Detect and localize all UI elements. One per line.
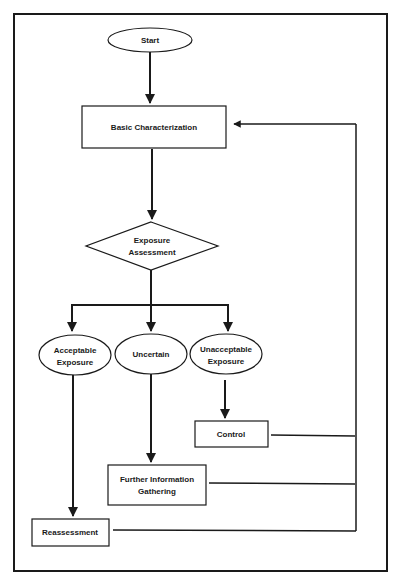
node-uncertain[interactable]: Uncertain bbox=[115, 334, 187, 374]
node-acceptable-exposure-label-line2: Exposure bbox=[57, 358, 94, 367]
node-unacceptable-exposure-label-line2: Exposure bbox=[208, 357, 245, 366]
node-acceptable-exposure-label-line1: Acceptable bbox=[54, 346, 97, 355]
node-reassessment[interactable]: Reassessment bbox=[32, 519, 109, 546]
node-exposure-assessment[interactable]: Exposure Assessment bbox=[86, 222, 218, 270]
node-uncertain-label: Uncertain bbox=[133, 350, 170, 359]
node-further-information-gathering[interactable]: Further Information Gathering bbox=[108, 465, 206, 505]
flowchart-canvas: Start Basic Characterization Exposure As… bbox=[0, 0, 397, 579]
branch-connectors bbox=[71, 270, 229, 331]
node-basic-characterization[interactable]: Basic Characterization bbox=[82, 106, 226, 148]
node-acceptable-exposure[interactable]: Acceptable Exposure bbox=[39, 335, 111, 375]
node-start-label: Start bbox=[141, 36, 160, 45]
node-reassessment-label: Reassessment bbox=[42, 528, 98, 537]
node-exposure-assessment-label-line2: Assessment bbox=[128, 248, 175, 257]
node-exposure-assessment-label-line1: Exposure bbox=[134, 236, 171, 245]
node-unacceptable-exposure-label-line1: Unacceptable bbox=[200, 345, 253, 354]
node-control-label: Control bbox=[217, 430, 245, 439]
node-start[interactable]: Start bbox=[108, 28, 192, 52]
node-unacceptable-exposure[interactable]: Unacceptable Exposure bbox=[190, 334, 262, 374]
node-basic-characterization-label: Basic Characterization bbox=[111, 123, 197, 132]
node-further-info-label-line2: Gathering bbox=[138, 487, 176, 496]
node-control[interactable]: Control bbox=[195, 421, 268, 447]
node-further-info-label-line1: Further Information bbox=[120, 475, 194, 484]
